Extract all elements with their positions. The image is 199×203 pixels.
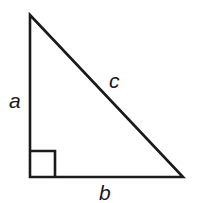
triangle-outline: [30, 15, 183, 177]
label-side-c: c: [109, 70, 120, 91]
right-triangle-figure: a c b: [0, 0, 199, 203]
label-side-a: a: [9, 90, 21, 111]
right-angle-square-icon: [30, 151, 55, 177]
triangle-drawing: [0, 0, 199, 203]
label-side-b: b: [99, 182, 111, 203]
